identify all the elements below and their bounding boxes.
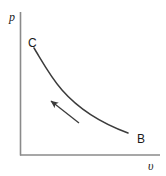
pv-diagram-canvas: p υ C B bbox=[0, 0, 166, 176]
curve-label-b: B bbox=[137, 132, 145, 146]
process-direction-arrow bbox=[51, 101, 79, 123]
isotherm-curve bbox=[34, 48, 128, 133]
x-axis-label: υ bbox=[148, 159, 154, 173]
curve-label-c: C bbox=[28, 36, 37, 50]
y-axis-label: p bbox=[8, 10, 15, 24]
pv-diagram-figure: p υ C B bbox=[0, 0, 166, 176]
